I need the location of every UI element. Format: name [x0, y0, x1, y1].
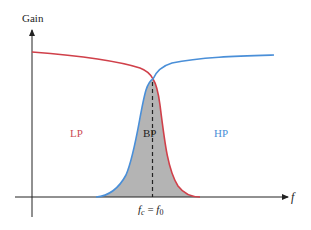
- f0-sub: 0: [159, 208, 163, 217]
- hp-curve: [96, 55, 274, 197]
- lp-curve: [32, 52, 200, 197]
- filter-response-diagram: Gain f LP BP HP fc = f0: [0, 0, 311, 230]
- bp-label: BP: [143, 127, 156, 139]
- equals-sign: =: [145, 203, 157, 215]
- lp-label: LP: [70, 127, 83, 139]
- center-frequency-label: fc = f0: [138, 203, 163, 217]
- hp-label: HP: [214, 127, 228, 139]
- y-axis-label: Gain: [22, 12, 44, 24]
- x-axis-label: f: [291, 190, 296, 204]
